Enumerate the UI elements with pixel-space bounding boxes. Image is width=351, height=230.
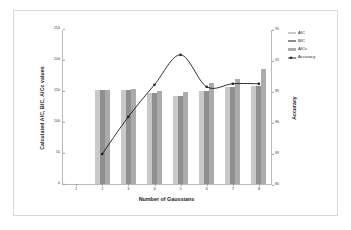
accuracy-marker — [232, 83, 234, 85]
accuracy-marker — [127, 116, 129, 118]
x-tick: 8 — [258, 184, 260, 192]
accuracy-marker — [258, 83, 260, 85]
x-tick: 3 — [127, 184, 129, 192]
accuracy-marker — [153, 84, 155, 86]
legend-swatch-accuracy-line-icon — [288, 55, 296, 61]
y-tick-right: 95 — [272, 28, 279, 32]
x-axis-title: Number of Gaussians — [62, 196, 271, 202]
accuracy-line-path — [102, 55, 259, 154]
y-tick-left: 0 — [58, 182, 63, 186]
line-series-layer — [63, 30, 271, 184]
y-tick-left: 200 — [54, 58, 63, 62]
legend-label-accuracy: Accuracy — [298, 55, 315, 59]
x-tick: 5 — [180, 184, 182, 192]
y-tick-left: 100 — [54, 120, 63, 124]
y-tick-right: 86 — [272, 121, 279, 125]
y-tick-left: 250 — [54, 27, 63, 31]
legend-label-aicc: AICc — [298, 47, 307, 51]
legend-label-bic: BIC — [298, 39, 305, 43]
y-tick-right: 80 — [272, 183, 279, 187]
y-axis-title-left: Calculated AIC, BIC, AICc values — [36, 30, 48, 185]
accuracy-line-svg — [63, 30, 272, 185]
accuracy-marker — [101, 153, 103, 155]
chart-legend: AIC BIC AICc Accuracy — [288, 30, 315, 61]
y-tick-right: 83 — [272, 152, 279, 156]
plot-area: 050100150200250 12345678 — [62, 30, 271, 185]
legend-label-aic: AIC — [298, 31, 305, 35]
chart-figure: Calculated AIC, BIC, AICc values Accurac… — [0, 0, 351, 230]
y-tick-right: 89 — [272, 90, 279, 94]
x-tick: 7 — [232, 184, 234, 192]
legend-swatch-aicc-icon — [288, 48, 296, 51]
accuracy-marker — [206, 86, 208, 88]
y-tick-right: 92 — [272, 59, 279, 63]
y-tick-left: 150 — [54, 89, 63, 93]
y-axis-title-left-text: Calculated AIC, BIC, AICc values — [39, 66, 45, 150]
legend-item-aicc: AICc — [288, 46, 315, 52]
legend-item-aic: AIC — [288, 30, 315, 36]
accuracy-marker — [179, 54, 181, 56]
y-tick-left: 50 — [56, 151, 63, 155]
y-axis-right: 808386899295 — [271, 30, 272, 185]
x-tick: 4 — [153, 184, 155, 192]
x-tick: 2 — [101, 184, 103, 192]
x-tick: 6 — [206, 184, 208, 192]
legend-item-bic: BIC — [288, 38, 315, 44]
legend-swatch-aic-icon — [288, 32, 296, 35]
legend-item-accuracy: Accuracy — [288, 55, 315, 61]
x-tick: 1 — [75, 184, 77, 192]
legend-swatch-bic-icon — [288, 40, 296, 43]
y-axis-title-right-text: Accuracy — [291, 96, 297, 119]
